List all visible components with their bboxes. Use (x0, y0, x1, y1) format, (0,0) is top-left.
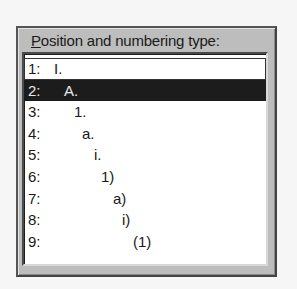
item-number: 1: (28, 58, 41, 80)
list-item[interactable]: 9: (1) (24, 231, 266, 253)
item-number: 9: (28, 231, 41, 253)
position-numbering-listbox[interactable]: 1: I. 2: A. 3: 1. 4: a. 5: i. 6: 1) (22, 52, 268, 266)
list-item[interactable]: 6: 1) (24, 166, 266, 188)
item-number: 5: (28, 144, 41, 166)
list-item[interactable]: 8: i) (24, 209, 266, 231)
list-item-selected[interactable]: 2: A. (24, 80, 266, 102)
item-format: a) (113, 188, 126, 210)
list-item[interactable]: 1: I. (24, 58, 266, 80)
label-text: osition and numbering type: (41, 32, 220, 49)
item-format: (1) (133, 231, 151, 253)
item-number: 8: (28, 209, 41, 231)
page: Position and numbering type: 1: I. 2: A.… (0, 0, 297, 289)
item-number: 4: (28, 123, 41, 145)
list-item[interactable]: 4: a. (24, 123, 266, 145)
list-item[interactable]: 3: 1. (24, 101, 266, 123)
item-format: 1. (74, 101, 87, 123)
list-item[interactable]: 7: a) (24, 188, 266, 210)
item-format: A. (64, 80, 78, 102)
item-number: 3: (28, 101, 41, 123)
item-number: 2: (28, 80, 41, 102)
position-numbering-label: Position and numbering type: (31, 32, 220, 49)
item-number: 7: (28, 188, 41, 210)
item-format: I. (54, 58, 62, 80)
list-item[interactable]: 5: i. (24, 144, 266, 166)
item-number: 6: (28, 166, 41, 188)
numbering-type-group: Position and numbering type: 1: I. 2: A.… (16, 26, 277, 277)
item-format: 1) (101, 166, 114, 188)
item-format: i) (122, 209, 130, 231)
item-format: i. (94, 144, 102, 166)
item-format: a. (82, 123, 95, 145)
label-access-key: P (31, 32, 41, 49)
